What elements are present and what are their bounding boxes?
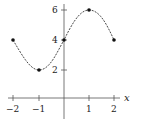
y-tick-label: 2	[52, 65, 58, 75]
x-axis-label: x	[124, 92, 130, 103]
point	[11, 38, 15, 42]
y-tick-label: 6	[52, 5, 58, 15]
point	[62, 38, 66, 42]
x-tick-label: 1	[86, 104, 92, 114]
y-tick-label: 4	[52, 35, 58, 45]
point	[112, 38, 116, 42]
x-tick-label: −2	[6, 104, 19, 114]
x-tick-label: −1	[32, 104, 45, 114]
point	[87, 8, 91, 12]
plot: −2 −1 1 2 6 4 2 x	[0, 0, 143, 123]
x-tick-label: 2	[111, 104, 117, 114]
point	[37, 68, 41, 72]
